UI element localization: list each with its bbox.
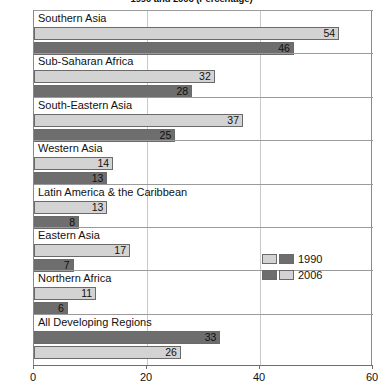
bar: 13 (34, 201, 107, 214)
bar: 17 (34, 244, 130, 257)
bar-value-label: 32 (199, 71, 211, 82)
bar-value-label: 33 (205, 332, 217, 343)
legend-swatch-icon (279, 270, 294, 280)
legend-swatch-icon (262, 254, 277, 264)
plot-area: Southern Asia5446Sub-Saharan Africa3228S… (33, 10, 372, 365)
bar-group-label: Southern Asia (38, 10, 107, 27)
bar-value-label: 26 (165, 347, 177, 358)
x-axis-tick (33, 365, 34, 369)
bar-group: All Developing Regions3326 (34, 314, 373, 361)
bar-group: South-Eastern Asia3725 (34, 97, 373, 144)
x-axis-tick (259, 365, 260, 369)
x-axis-tick-label: 40 (253, 371, 265, 383)
x-axis-tick (146, 365, 147, 369)
bar-group-label: Northern Africa (38, 270, 111, 287)
x-axis-tick-label: 0 (30, 371, 36, 383)
x-axis-tick-label: 60 (366, 371, 378, 383)
bar-group: Latin America & the Caribbean138 (34, 184, 373, 231)
bar-group-label: Sub-Saharan Africa (38, 53, 133, 70)
bar-value-label: 46 (278, 43, 290, 54)
chart-title: 1990 and 2006 (Percentage) (0, 0, 383, 4)
bar-value-label: 17 (114, 245, 126, 256)
bar: 11 (34, 287, 96, 300)
bar-value-label: 28 (177, 86, 189, 97)
bar-value-label: 13 (92, 202, 104, 213)
bar-group: Eastern Asia177 (34, 227, 373, 274)
bar-group: Sub-Saharan Africa3228 (34, 53, 373, 100)
bar-value-label: 11 (81, 288, 92, 299)
bar: 26 (34, 346, 181, 359)
bar-group: Western Asia1413 (34, 140, 373, 187)
legend-swatch-icon (279, 254, 294, 264)
bar-group-label: Western Asia (38, 140, 103, 157)
bar: 33 (34, 331, 220, 344)
bar-value-label: 7 (64, 260, 70, 271)
x-axis-tick-label: 20 (140, 371, 152, 383)
bar-value-label: 8 (69, 217, 75, 228)
bar-group-label: All Developing Regions (38, 314, 152, 331)
bar: 14 (34, 157, 113, 170)
bar-group-label: Eastern Asia (38, 227, 100, 244)
x-axis-tick (372, 365, 373, 369)
bar-chart: 1990 and 2006 (Percentage) Southern Asia… (0, 0, 383, 392)
bar-value-label: 14 (97, 158, 109, 169)
bar: 54 (34, 27, 339, 40)
bar: 32 (34, 70, 215, 83)
bar-value-label: 37 (227, 115, 239, 126)
legend-swatch-icon (262, 270, 277, 280)
bar-group: Southern Asia5446 (34, 10, 373, 57)
x-axis-line (33, 365, 372, 366)
legend-label-1990: 1990 (298, 252, 322, 266)
bar: 37 (34, 114, 243, 127)
bar-value-label: 13 (92, 173, 104, 184)
legend-label-2006: 2006 (298, 268, 322, 282)
bar-value-label: 25 (160, 130, 172, 141)
bar-value-label: 54 (323, 28, 335, 39)
bar-value-label: 6 (58, 303, 64, 314)
bar-group-label: Latin America & the Caribbean (38, 184, 187, 201)
bar-group-label: South-Eastern Asia (38, 97, 132, 114)
